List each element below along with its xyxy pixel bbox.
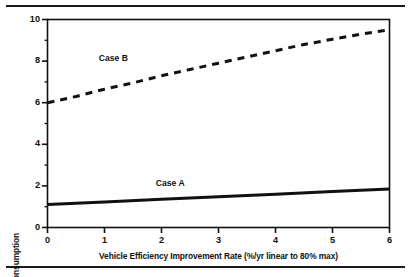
y-tick-label: 6 (20, 97, 40, 107)
y-tick-label: 10 (20, 14, 40, 24)
y-tick-label: 4 (20, 138, 40, 148)
y-tick-label: 2 (20, 180, 40, 190)
x-tick-label: 3 (209, 235, 229, 245)
series-annotation-case-b: Case B (99, 53, 128, 63)
chart-plot (0, 0, 411, 277)
y-tick-label: 8 (20, 55, 40, 65)
x-tick-label: 5 (323, 235, 343, 245)
x-tick-label: 6 (380, 235, 400, 245)
x-tick-label: 2 (152, 235, 172, 245)
x-tick-label: 4 (266, 235, 286, 245)
x-tick-label: 0 (38, 235, 58, 245)
y-tick-label: 0 (20, 222, 40, 232)
series-annotation-case-a: Case A (156, 178, 185, 188)
figure-container: Renewable Share of Light-Vehicle Fuel Co… (0, 0, 411, 277)
x-axis-ticks (48, 228, 390, 234)
x-tick-label: 1 (95, 235, 115, 245)
